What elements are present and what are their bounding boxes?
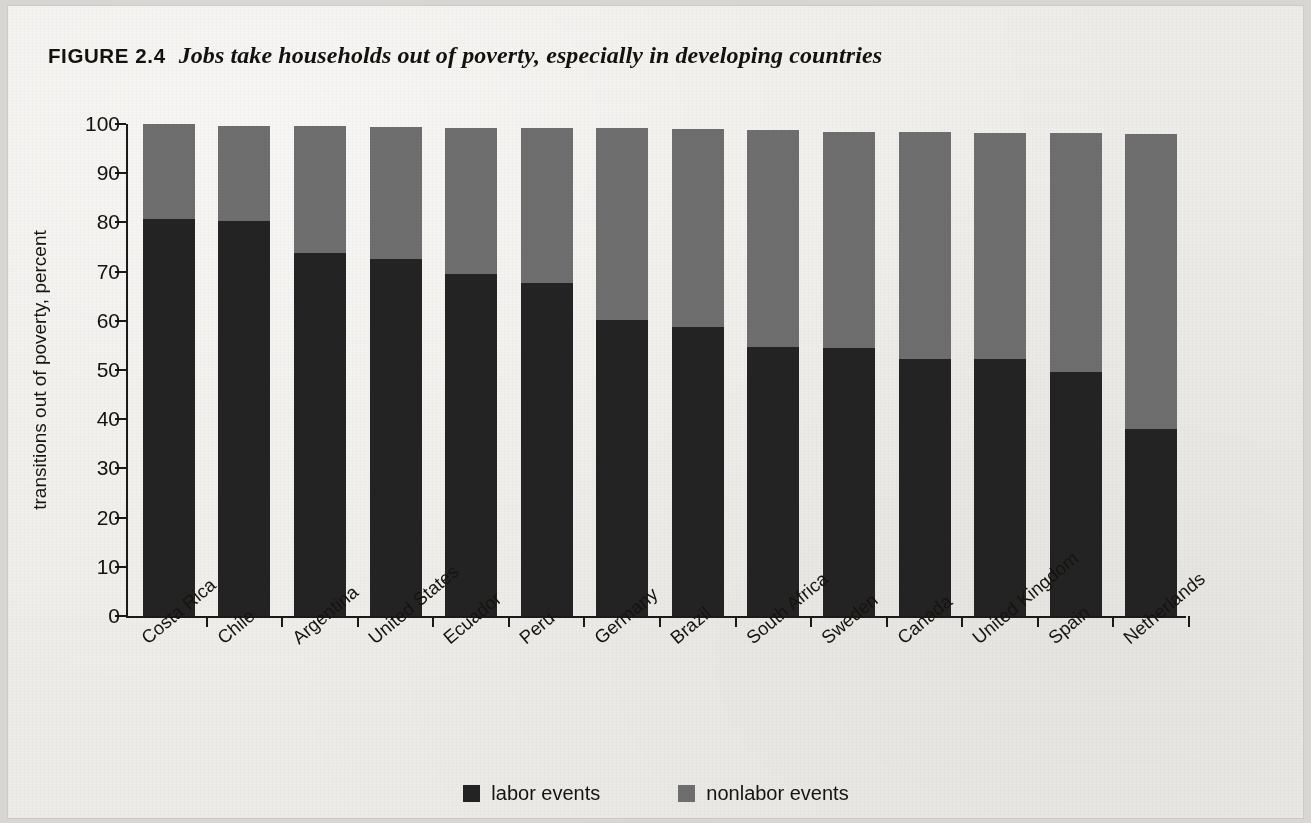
bar-segment-nonlabor xyxy=(218,126,270,221)
x-tick xyxy=(1188,616,1190,627)
bar-canada xyxy=(899,132,951,616)
bar-chile xyxy=(218,125,270,616)
bar-sweden xyxy=(823,132,875,616)
bar-segment-labor xyxy=(218,221,270,616)
y-tick-label: 50 xyxy=(97,358,120,382)
bar-segment-nonlabor xyxy=(294,126,346,254)
x-tick xyxy=(1037,616,1039,627)
bar-costa-rica xyxy=(143,124,195,616)
bar-spain xyxy=(1050,133,1102,616)
y-tick-label: 80 xyxy=(97,210,120,234)
y-tick-label: 100 xyxy=(85,112,120,136)
x-tick xyxy=(735,616,737,627)
y-tick-label: 30 xyxy=(97,456,120,480)
x-tick xyxy=(810,616,812,627)
bar-segment-nonlabor xyxy=(1125,134,1177,429)
y-tick-label: 90 xyxy=(97,161,120,185)
bar-segment-labor xyxy=(899,359,951,616)
y-tick-label: 0 xyxy=(108,604,120,628)
y-tick-label: 60 xyxy=(97,309,120,333)
bar-united-states xyxy=(370,127,422,616)
bar-segment-labor xyxy=(823,348,875,616)
legend-square-swatch xyxy=(678,785,695,802)
x-tick xyxy=(206,616,208,627)
x-axis-line xyxy=(126,616,1186,618)
y-tick-label: 70 xyxy=(97,260,120,284)
bar-segment-labor xyxy=(370,259,422,616)
bar-segment-nonlabor xyxy=(445,128,497,274)
bar-segment-nonlabor xyxy=(823,132,875,348)
y-tick-label: 10 xyxy=(97,555,120,579)
y-tick-label: 20 xyxy=(97,506,120,530)
x-tick xyxy=(357,616,359,627)
y-tick-label: 40 xyxy=(97,407,120,431)
bar-germany xyxy=(596,128,648,616)
legend-square-swatch xyxy=(463,785,480,802)
legend-label: labor events xyxy=(491,782,600,805)
bar-brazil xyxy=(672,129,724,616)
figure-number: FIGURE 2.4 xyxy=(48,44,166,67)
x-tick xyxy=(432,616,434,627)
chart-plot-area: transitions out of poverty, percent 0102… xyxy=(126,124,1291,616)
figure-title: FIGURE 2.4Jobs take households out of po… xyxy=(48,42,1228,76)
bar-segment-labor xyxy=(596,320,648,616)
bar-segment-labor xyxy=(672,327,724,616)
bar-segment-nonlabor xyxy=(747,130,799,346)
figure-page: FIGURE 2.4Jobs take households out of po… xyxy=(8,6,1303,818)
bar-south-africa xyxy=(747,130,799,616)
x-tick xyxy=(1112,616,1114,627)
bar-segment-labor xyxy=(747,347,799,616)
figure-caption: Jobs take households out of poverty, esp… xyxy=(179,42,883,68)
bar-ecuador xyxy=(445,128,497,616)
bar-segment-nonlabor xyxy=(370,127,422,259)
bar-segment-labor xyxy=(974,359,1026,616)
bar-argentina xyxy=(294,125,346,616)
chart-legend: labor eventsnonlabor events xyxy=(126,782,1186,805)
bar-segment-nonlabor xyxy=(899,132,951,358)
legend-item: nonlabor events xyxy=(678,782,848,805)
bar-segment-nonlabor xyxy=(672,129,724,327)
x-tick xyxy=(961,616,963,627)
bar-segment-nonlabor xyxy=(143,124,195,219)
bar-segment-labor xyxy=(521,283,573,616)
bar-netherlands xyxy=(1125,134,1177,616)
legend-item: labor events xyxy=(463,782,600,805)
x-tick xyxy=(583,616,585,627)
bar-segment-labor xyxy=(143,219,195,616)
x-tick xyxy=(281,616,283,627)
x-tick xyxy=(886,616,888,627)
y-axis-line xyxy=(126,124,128,616)
y-axis-title: transitions out of poverty, percent xyxy=(29,230,51,510)
bar-segment-nonlabor xyxy=(521,128,573,283)
bar-peru xyxy=(521,128,573,616)
bar-segment-nonlabor xyxy=(974,133,1026,359)
bar-segment-nonlabor xyxy=(1050,133,1102,372)
bar-segment-nonlabor xyxy=(596,128,648,320)
x-tick xyxy=(508,616,510,627)
x-tick xyxy=(659,616,661,627)
legend-label: nonlabor events xyxy=(706,782,848,805)
bar-segment-labor xyxy=(294,253,346,616)
bar-united-kingdom xyxy=(974,133,1026,616)
